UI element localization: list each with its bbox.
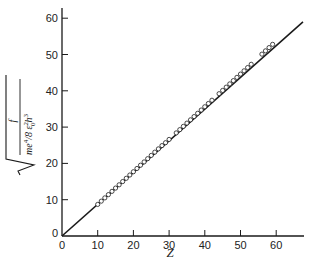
data-point-circle	[128, 173, 132, 177]
y-title-denominator: me4/8 ε20h3	[22, 114, 37, 155]
data-point-circle	[103, 196, 107, 200]
data-point-circle	[188, 118, 192, 122]
y-tick-label: 0	[52, 227, 58, 239]
data-point-circle	[246, 65, 250, 69]
y-tick-label: 30	[46, 121, 58, 133]
x-tick-label: 40	[199, 239, 211, 251]
data-point-circle	[267, 46, 271, 50]
data-point-circle	[146, 157, 150, 161]
data-point-circle	[228, 82, 232, 86]
data-point-circle	[185, 121, 189, 125]
data-point-circle	[121, 179, 125, 183]
data-point-circle	[167, 137, 171, 141]
data-point-circle	[203, 105, 207, 109]
y-title-numerator: f	[7, 118, 18, 122]
y-tick-label: 40	[46, 85, 58, 97]
data-point-circle	[174, 131, 178, 135]
data-point-circle	[224, 85, 228, 89]
data-point-circle	[110, 189, 114, 193]
data-point-circle	[210, 98, 214, 102]
y-tick-label: 10	[46, 194, 58, 206]
x-tick-label: 0	[59, 239, 65, 251]
data-point-circle	[242, 69, 246, 73]
data-point-circle	[149, 153, 153, 157]
axes	[62, 8, 304, 236]
moseley-plot: 0102030405060 0102030405060 Z f me4/8 ε2…	[0, 0, 312, 269]
data-point-circle	[142, 160, 146, 164]
data-point-circle	[238, 72, 242, 76]
data-point-circle	[196, 111, 200, 115]
data-point-circle	[249, 62, 253, 66]
data-point-circle	[221, 88, 225, 92]
data-point-circle	[271, 42, 275, 46]
data-point-circle	[99, 199, 103, 203]
data-points	[96, 42, 275, 206]
data-point-circle	[138, 163, 142, 167]
data-point-circle	[156, 147, 160, 151]
data-point-circle	[106, 193, 110, 197]
x-tick-label: 20	[127, 239, 139, 251]
data-point-circle	[231, 79, 235, 83]
data-point-circle	[96, 202, 100, 206]
data-point-circle	[206, 101, 210, 105]
data-point-circle	[124, 176, 128, 180]
data-point-circle	[178, 128, 182, 132]
data-point-circle	[181, 124, 185, 128]
y-tick-label: 50	[46, 49, 58, 61]
data-point-circle	[217, 92, 221, 96]
data-point-circle	[263, 49, 267, 53]
data-point-circle	[163, 141, 167, 145]
x-tick-label: 10	[92, 239, 104, 251]
data-point-circle	[131, 170, 135, 174]
y-ticks: 0102030405060	[46, 12, 68, 239]
data-point-circle	[160, 144, 164, 148]
data-point-circle	[117, 183, 121, 187]
x-tick-label: 50	[234, 239, 246, 251]
data-point-circle	[113, 186, 117, 190]
data-point-circle	[135, 166, 139, 170]
data-point-circle	[235, 75, 239, 79]
data-point-circle	[260, 52, 264, 56]
data-point-circle	[153, 150, 157, 154]
x-axis-title: Z	[166, 245, 174, 260]
y-tick-label: 20	[46, 157, 58, 169]
y-axis-title: f me4/8 ε20h3	[6, 75, 37, 175]
y-tick-label: 60	[46, 12, 58, 24]
data-point-circle	[199, 108, 203, 112]
x-tick-label: 60	[270, 239, 282, 251]
data-point-circle	[192, 114, 196, 118]
